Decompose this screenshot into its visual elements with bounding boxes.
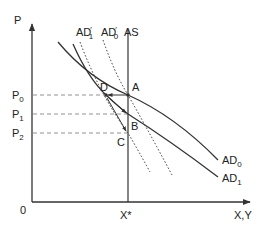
ad1-prime-curve: [80, 42, 150, 172]
p2-label: P2: [12, 127, 24, 142]
ad-as-diagram: P 0 X* X,Y P0 P1 P2 D A B C AD′1 AD′0 AS…: [0, 0, 265, 235]
arrow-d-to-b: [107, 96, 126, 113]
y-axis-label: P: [14, 14, 21, 26]
p0-label: P0: [12, 89, 24, 104]
as-label: AS: [124, 26, 139, 38]
point-d-label: D: [100, 81, 108, 93]
ad1-label: AD1: [222, 172, 242, 187]
ad0-curve: [58, 42, 218, 160]
ad1-curve: [73, 44, 218, 177]
x-star-label: X*: [120, 209, 132, 221]
p1-label: P1: [12, 108, 24, 123]
ad0-prime-curve: [103, 40, 172, 175]
ad0-prime-label: AD′0: [101, 25, 119, 41]
origin-label: 0: [20, 204, 26, 216]
ad0-label: AD0: [222, 154, 242, 169]
point-b-label: B: [131, 120, 138, 132]
point-d: [104, 93, 108, 97]
arrow-d-to-c: [107, 98, 126, 131]
ad1-prime-label: AD′1: [76, 25, 94, 41]
point-a-label: A: [132, 81, 140, 93]
x-axis-label: X,Y: [234, 209, 252, 221]
point-c-label: C: [117, 136, 125, 148]
point-a: [126, 93, 130, 97]
